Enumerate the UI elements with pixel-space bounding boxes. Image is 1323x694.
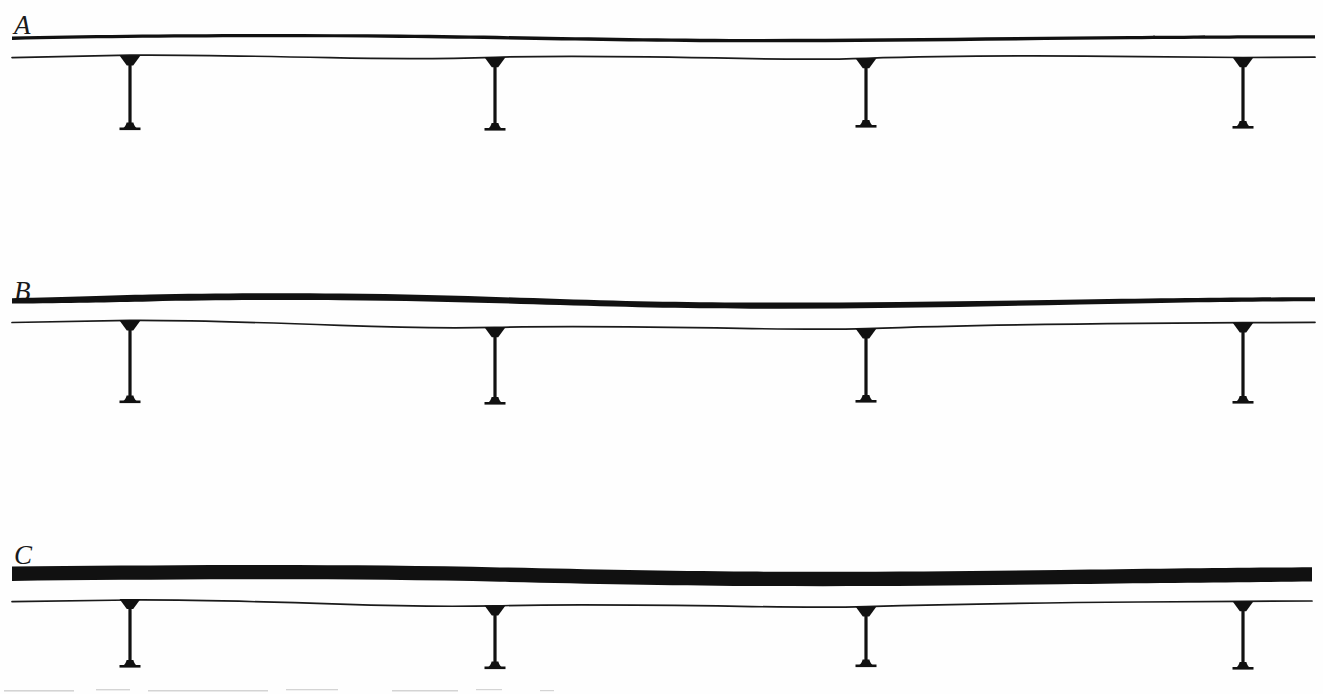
pendant bbox=[485, 606, 506, 670]
pendant bbox=[120, 599, 141, 668]
panel-a-band-group bbox=[12, 34, 1315, 59]
panel-c-pendant-group bbox=[120, 599, 1254, 670]
panel-a-pendant-group bbox=[120, 56, 1254, 131]
panel-c-upper-band bbox=[12, 565, 1312, 586]
panel-c-graphic bbox=[0, 520, 1323, 694]
panel-b: B bbox=[0, 260, 1323, 520]
panel-a-lower-line bbox=[12, 55, 1315, 59]
panel-b-pendant-group bbox=[120, 321, 1254, 405]
panel-c-lower-line bbox=[12, 600, 1312, 607]
panel-c-band-group bbox=[12, 565, 1312, 607]
panel-b-lower-line bbox=[12, 320, 1315, 329]
panel-a-graphic bbox=[0, 0, 1323, 260]
pendant bbox=[856, 606, 877, 667]
panel-b-upper-band bbox=[12, 293, 1315, 309]
pendant bbox=[1233, 57, 1254, 128]
panel-c: C bbox=[0, 520, 1323, 694]
pendant bbox=[1233, 601, 1254, 669]
panel-a-upper-band bbox=[12, 34, 1315, 42]
pendant bbox=[485, 327, 506, 404]
panel-b-band-group bbox=[12, 293, 1315, 329]
figure-root: A bbox=[0, 0, 1323, 694]
pendant bbox=[120, 321, 141, 404]
panel-a: A bbox=[0, 0, 1323, 260]
pendant bbox=[856, 58, 877, 127]
pendant bbox=[120, 56, 141, 131]
pendant bbox=[856, 328, 877, 402]
pendant bbox=[1233, 323, 1254, 404]
panel-b-graphic bbox=[0, 260, 1323, 520]
pendant bbox=[485, 57, 506, 130]
